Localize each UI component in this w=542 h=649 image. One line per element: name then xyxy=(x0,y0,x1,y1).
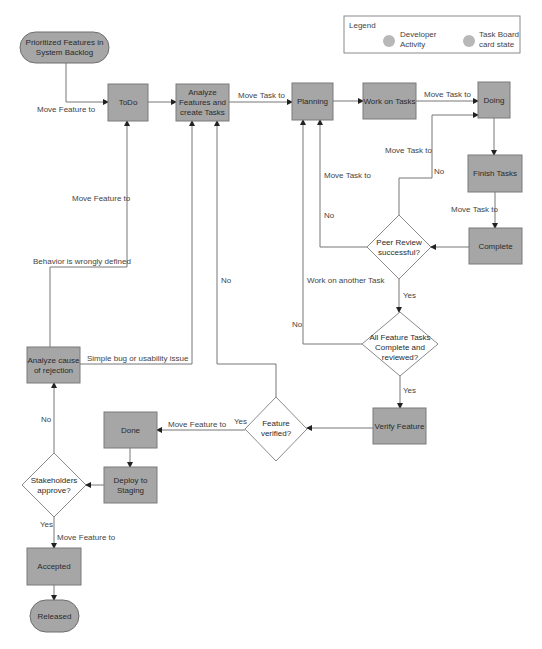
label-work-doing: Move Task to xyxy=(424,90,472,99)
node-planning-label: Planning xyxy=(297,97,328,106)
node-doing[interactable]: Doing xyxy=(478,82,510,118)
label-peer-doing-move: Move Task to xyxy=(385,146,433,155)
legend-item-task-board: Task Board xyxy=(479,30,519,39)
node-analyze-rejection-line1: Analyze cause xyxy=(27,356,80,365)
legend-item-developer-activity: Developer xyxy=(400,30,437,39)
legend-item-developer-activity-line2: Activity xyxy=(400,40,425,49)
legend-item-task-board-line2: card state xyxy=(479,40,515,49)
label-peer-planning-no: No xyxy=(324,211,335,220)
node-finish-tasks[interactable]: Finish Tasks xyxy=(468,155,522,192)
node-planning[interactable]: Planning xyxy=(292,83,333,120)
node-accepted-label: Accepted xyxy=(37,562,70,571)
decision-peer-review-line2: successful? xyxy=(378,248,420,257)
decision-stakeholders[interactable]: Stakeholders approve? xyxy=(22,453,86,517)
edge-rejection-todo xyxy=(50,121,127,347)
node-verify-feature-label: Verify Feature xyxy=(375,422,425,431)
label-stakeholders-accepted: Move Feature to xyxy=(57,533,116,542)
label-finish-complete: Move Task to xyxy=(451,205,499,214)
label-featureverified-no: No xyxy=(221,276,232,285)
node-work-on-tasks-label: Work on Tasks xyxy=(363,97,415,106)
label-peer-doing-no: No xyxy=(434,167,445,176)
legend: Legend Developer Activity Task Board car… xyxy=(344,16,520,53)
node-complete[interactable]: Complete xyxy=(469,228,522,264)
edge-backlog-todo xyxy=(66,63,108,102)
node-finish-tasks-label: Finish Tasks xyxy=(473,169,517,178)
node-deploy-staging[interactable]: Deploy to Staging xyxy=(104,467,157,503)
node-analyze-rejection-line2: of rejection xyxy=(34,366,73,375)
label-backlog-todo: Move Feature to xyxy=(37,105,96,114)
node-released[interactable]: Released xyxy=(30,600,79,632)
workflow-diagram: Legend Developer Activity Task Board car… xyxy=(0,0,542,649)
label-analyze-planning: Move Task to xyxy=(238,91,286,100)
node-work-on-tasks[interactable]: Work on Tasks xyxy=(363,83,416,119)
developer-activity-swatch-icon xyxy=(383,35,395,47)
node-todo[interactable]: ToDo xyxy=(108,84,148,121)
label-alltasks-yes: Yes xyxy=(403,386,416,395)
node-todo-label: ToDo xyxy=(119,98,138,107)
decision-all-feature-tasks[interactable]: All Feature Tasks Complete and reviewed? xyxy=(362,312,438,376)
decision-feature-verified-line1: Feature xyxy=(262,419,290,428)
label-stakeholders-no: No xyxy=(41,415,52,424)
label-featureverified-done: Move Feature to xyxy=(168,420,227,429)
label-alltasks-no: No xyxy=(292,320,303,329)
label-behavior-wrong: Behavior is wrongly defined xyxy=(33,257,131,266)
decision-feature-verified[interactable]: Feature verified? xyxy=(245,397,307,461)
node-analyze-features-line3: create Tasks xyxy=(180,108,225,117)
edge-alltasks-planning xyxy=(303,120,362,344)
node-analyze-features[interactable]: Analyze Features and create Tasks xyxy=(176,84,229,121)
node-backlog[interactable]: Prioritized Features in System Backlog xyxy=(20,32,109,63)
decision-feature-verified-line2: verified? xyxy=(261,429,292,438)
edge-peer-doing xyxy=(399,115,478,215)
edge-peer-planning xyxy=(320,120,367,247)
edge-rejection-analyze xyxy=(80,121,192,364)
task-board-state-swatch-icon xyxy=(463,35,475,47)
decision-peer-review-line1: Peer Review xyxy=(376,238,422,247)
label-rejection-todo-move: Move Feature to xyxy=(72,194,131,203)
decision-stakeholders-line1: Stakeholders xyxy=(31,476,78,485)
node-complete-label: Complete xyxy=(478,242,513,251)
node-analyze-rejection[interactable]: Analyze cause of rejection xyxy=(27,347,80,383)
node-released-label: Released xyxy=(38,612,72,621)
label-peer-planning-move: Move Task to xyxy=(324,171,372,180)
decision-peer-review[interactable]: Peer Review successful? xyxy=(367,215,431,279)
node-accepted[interactable]: Accepted xyxy=(27,548,81,585)
decision-all-feature-tasks-line2: Complete and xyxy=(375,343,425,352)
node-done-label: Done xyxy=(121,426,141,435)
node-backlog-line2: System Backlog xyxy=(36,48,93,57)
legend-title: Legend xyxy=(349,21,376,30)
node-analyze-features-line2: Features and xyxy=(179,98,226,107)
node-done[interactable]: Done xyxy=(104,412,157,448)
edges xyxy=(50,63,495,600)
node-deploy-staging-line2: Staging xyxy=(117,486,144,495)
decision-all-feature-tasks-line1: All Feature Tasks xyxy=(369,333,430,342)
label-work-another-task: Work on another Task xyxy=(307,276,386,285)
node-verify-feature[interactable]: Verify Feature xyxy=(373,408,426,444)
label-stakeholders-yes: Yes xyxy=(40,520,53,529)
label-simple-bug: Simple bug or usability issue xyxy=(87,354,189,363)
label-peer-yes: Yes xyxy=(403,291,416,300)
node-doing-label: Doing xyxy=(484,96,505,105)
decision-all-feature-tasks-line3: reviewed? xyxy=(382,353,419,362)
edge-labels: Move Feature to Move Task to Move Task t… xyxy=(33,90,499,542)
node-backlog-line1: Prioritized Features in xyxy=(26,38,104,47)
decision-stakeholders-line2: approve? xyxy=(37,486,71,495)
node-deploy-staging-line1: Deploy to xyxy=(114,476,148,485)
edge-featureverified-analyze xyxy=(217,121,276,397)
node-analyze-features-line1: Analyze xyxy=(188,88,217,97)
label-featureverified-yes: Yes xyxy=(234,417,247,426)
